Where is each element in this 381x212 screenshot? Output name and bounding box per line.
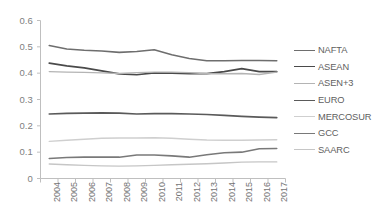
legend-item-euro[interactable]: EURO <box>294 92 381 109</box>
legend-line-swatch-icon <box>294 83 315 84</box>
legend-item-label: NAFTA <box>318 45 347 55</box>
legend-item-label: MERCOSUR <box>318 112 371 122</box>
x-axis-tick-label: 2014 <box>228 182 237 212</box>
x-axis-tick-label: 2013 <box>210 182 219 212</box>
legend-line-swatch-icon <box>294 116 315 117</box>
line-chart: 00.10.20.30.40.50.6 20042005200620072008… <box>0 0 381 212</box>
x-axis-tick-label: 2015 <box>245 182 254 212</box>
series-line-nafta <box>49 46 277 61</box>
legend-item-asenplus3[interactable]: ASEN+3 <box>294 75 381 92</box>
legend-line-swatch-icon <box>294 100 315 101</box>
legend-item-label: EURO <box>318 95 344 105</box>
series-line-saarc <box>49 162 277 166</box>
legend-item-asean[interactable]: ASEAN <box>294 59 381 76</box>
legend-line-swatch-icon <box>294 133 315 134</box>
x-axis-tick-label: 2005 <box>70 182 79 212</box>
chart-legend: NAFTAASEANASEN+3EUROMERCOSURGCCSAARC <box>294 42 381 158</box>
x-axis-tick-label: 2010 <box>158 182 167 212</box>
legend-item-gcc[interactable]: GCC <box>294 125 381 142</box>
axes <box>37 21 286 183</box>
x-axis-tick-label: 2004 <box>53 182 62 212</box>
legend-item-label: ASEN+3 <box>318 78 353 88</box>
series-line-mercosur <box>49 138 277 142</box>
x-axis-tick-label: 2011 <box>175 182 184 212</box>
series-line-gcc <box>49 148 277 158</box>
x-axis-tick-label: 2017 <box>280 182 289 212</box>
x-axis-tick-label: 2007 <box>105 182 114 212</box>
legend-item-nafta[interactable]: NAFTA <box>294 42 381 59</box>
legend-item-saarc[interactable]: SAARC <box>294 142 381 159</box>
legend-item-label: SAARC <box>318 145 350 155</box>
legend-line-swatch-icon <box>294 66 315 67</box>
legend-item-label: ASEAN <box>318 62 349 72</box>
x-axis-tick-label: 2016 <box>263 182 272 212</box>
series-line-euro <box>49 113 277 118</box>
legend-item-label: GCC <box>318 128 338 138</box>
x-axis-tick-label: 2006 <box>88 182 97 212</box>
x-axis-tick-label: 2008 <box>123 182 132 212</box>
legend-line-swatch-icon <box>294 50 315 51</box>
x-axis-tick-label: 2009 <box>140 182 149 212</box>
x-axis-tick-labels: 2004200520062007200820092010201120122013… <box>40 178 285 212</box>
x-axis-tick-label: 2012 <box>193 182 202 212</box>
legend-item-mercosur[interactable]: MERCOSUR <box>294 108 381 125</box>
series-lines <box>49 46 277 167</box>
legend-line-swatch-icon <box>294 149 315 150</box>
